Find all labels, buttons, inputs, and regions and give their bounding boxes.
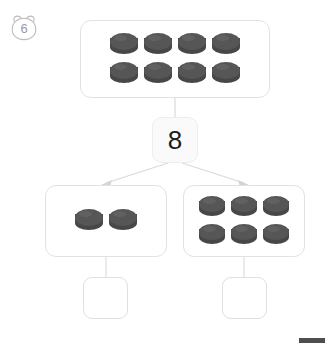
counter-gloss	[79, 211, 92, 217]
counter-token	[199, 196, 225, 219]
part-right-counters-card	[183, 185, 305, 257]
part-left-counters-card	[45, 185, 167, 257]
counter-row	[110, 62, 240, 86]
part-left-counter-grid	[46, 186, 166, 256]
counter-token	[110, 62, 138, 86]
answer-box-left[interactable]	[83, 277, 128, 319]
counter-token	[75, 209, 103, 233]
counter-row	[110, 33, 240, 57]
counter-gloss	[182, 35, 195, 41]
counter-row	[199, 196, 289, 219]
counter-token	[144, 33, 172, 57]
part-right-counter-grid	[184, 186, 304, 256]
counter-token	[109, 209, 137, 233]
counter-gloss	[216, 35, 229, 41]
counter-gloss	[114, 35, 127, 41]
counter-gloss	[235, 198, 248, 204]
question-number-text: 6	[9, 12, 39, 42]
counter-gloss	[216, 64, 229, 70]
whole-counters-card	[80, 20, 270, 98]
link-number-to-part-left	[106, 163, 168, 183]
link-number-to-part-right	[182, 163, 244, 183]
counter-gloss	[267, 198, 280, 204]
counter-token	[231, 224, 257, 247]
counter-gloss	[203, 198, 216, 204]
counter-token	[212, 33, 240, 57]
counter-token	[231, 196, 257, 219]
counter-token	[144, 62, 172, 86]
counter-gloss	[203, 226, 216, 232]
counter-token	[178, 62, 206, 86]
whole-number-text: 8	[168, 125, 182, 156]
counter-gloss	[148, 35, 161, 41]
worksheet-canvas: 6	[0, 0, 327, 344]
counter-token	[110, 33, 138, 57]
answer-box-right[interactable]	[222, 277, 267, 319]
whole-number-box: 8	[152, 117, 198, 163]
counter-gloss	[114, 64, 127, 70]
counter-gloss	[235, 226, 248, 232]
cropped-corner-element	[299, 338, 325, 343]
counter-gloss	[148, 64, 161, 70]
counter-token	[263, 196, 289, 219]
counter-row	[199, 224, 289, 247]
counter-gloss	[267, 226, 280, 232]
counter-token	[178, 33, 206, 57]
question-number-badge: 6	[9, 12, 39, 40]
counter-gloss	[182, 64, 195, 70]
counter-row	[75, 209, 137, 233]
counter-gloss	[113, 211, 126, 217]
whole-counter-grid	[81, 21, 269, 97]
counter-token	[212, 62, 240, 86]
counter-token	[263, 224, 289, 247]
counter-token	[199, 224, 225, 247]
